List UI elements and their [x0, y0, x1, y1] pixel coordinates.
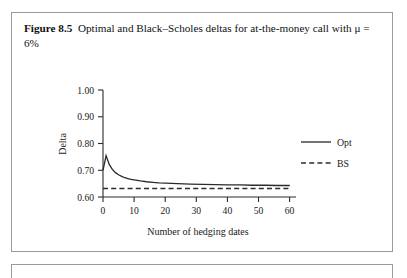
y-tick-label: 0.70 — [77, 165, 94, 176]
next-figure-box-fragment — [11, 264, 393, 278]
x-tick-label: 50 — [254, 205, 264, 216]
delta-line-chart: 1.00 0.90 0.80 0.70 0.60 0 10 20 30 — [12, 13, 394, 253]
x-tick-label: 0 — [101, 205, 106, 216]
y-axis-ticks — [98, 90, 103, 197]
x-tick-label: 30 — [192, 205, 202, 216]
y-axis-tick-labels: 1.00 0.90 0.80 0.70 0.60 — [77, 85, 94, 203]
x-axis-ticks — [103, 197, 290, 202]
legend-label-bs: BS — [337, 158, 349, 169]
x-tick-label: 40 — [223, 205, 233, 216]
x-tick-label: 10 — [129, 205, 139, 216]
y-tick-label: 1.00 — [77, 85, 94, 96]
y-tick-label: 0.80 — [77, 138, 94, 149]
y-tick-label: 0.60 — [77, 192, 94, 203]
x-tick-label: 60 — [285, 205, 295, 216]
x-axis-tick-labels: 0 10 20 30 40 50 60 — [101, 205, 295, 216]
chart-plot-area: 1.00 0.90 0.80 0.70 0.60 0 10 20 30 — [12, 13, 394, 253]
x-axis-title: Number of hedging dates — [147, 226, 248, 237]
chart-legend: Opt BS — [301, 137, 352, 169]
x-tick-label: 20 — [160, 205, 170, 216]
y-tick-label: 0.90 — [77, 111, 94, 122]
figure-box: Figure 8.5 Optimal and Black–Scholes del… — [11, 12, 393, 252]
series-line-opt — [103, 156, 290, 186]
legend-label-opt: Opt — [337, 137, 352, 148]
y-axis-title: Delta — [57, 133, 68, 155]
